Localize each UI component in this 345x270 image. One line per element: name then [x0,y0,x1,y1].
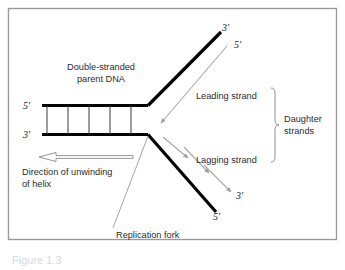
end-label-lower-template: 5′ [213,211,221,222]
parent-dna-label-line2: parent DNA [77,74,126,84]
daughter-strands-label-line1: Daughter [284,114,322,124]
unwinding-label-line2: of helix [22,179,52,189]
daughter-strands-label-line2: strands [284,126,315,136]
end-label-upper-daughter: 5′ [234,39,242,50]
end-label-parent-top-left: 5′ [23,100,31,111]
replication-fork-diagram: Double-stranded parent DNA Leading stran… [0,0,345,270]
end-label-lower-daughter: 3′ [235,190,244,201]
unwinding-label-line1: Direction of unwinding [22,167,112,177]
parent-dna-label-line1: Double-stranded [67,62,135,72]
end-label-parent-bottom-left: 3′ [22,129,31,140]
figure-border [9,9,337,240]
figure-root: Double-stranded parent DNA Leading stran… [0,0,345,270]
end-label-upper-template: 3′ [221,22,230,33]
caption-ghost: Figure 1.3 [12,254,62,266]
leading-strand-label: Leading strand [196,91,257,101]
lagging-strand-label: Lagging strand [196,155,257,165]
replication-fork-label: Replication fork [116,230,180,240]
